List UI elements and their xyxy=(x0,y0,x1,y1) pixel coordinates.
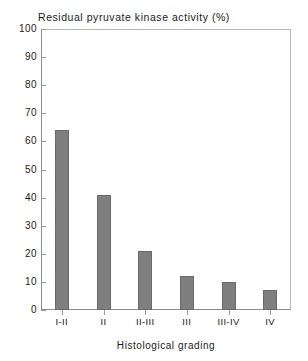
x-tick-ii-iii xyxy=(145,310,146,315)
bar-iii xyxy=(180,276,194,310)
bar-series xyxy=(0,0,308,361)
bar-iii-iv xyxy=(222,282,236,310)
bar-ii-iii xyxy=(138,251,152,310)
x-tick-label-iv: IV xyxy=(240,316,300,327)
chart-figure: Residual pyruvate kinase activity (%) 01… xyxy=(0,0,308,361)
x-axis-title: Histological grading xyxy=(41,340,291,351)
x-tick-ii xyxy=(104,310,105,315)
x-tick-iii-iv xyxy=(229,310,230,315)
bar-i-ii xyxy=(55,130,69,310)
x-tick-i-ii xyxy=(62,310,63,315)
x-tick-iii xyxy=(187,310,188,315)
bar-iv xyxy=(263,290,277,310)
bar-ii xyxy=(97,195,111,310)
x-tick-iv xyxy=(270,310,271,315)
